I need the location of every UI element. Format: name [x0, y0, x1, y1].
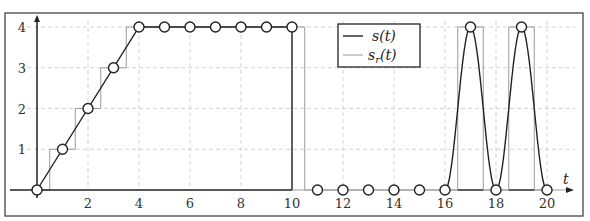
- sample-point: [491, 185, 501, 195]
- sample-point: [134, 22, 144, 32]
- sample-point: [160, 22, 170, 32]
- sample-point: [83, 104, 93, 114]
- legend-label-s: s(t): [372, 28, 396, 44]
- sample-point: [440, 185, 450, 195]
- sample-point: [517, 22, 527, 32]
- x-axis-arrow-icon: [566, 187, 574, 193]
- sample-point: [262, 22, 272, 32]
- tick-labels: 24681012141618201234: [18, 20, 556, 211]
- sample-point: [58, 144, 68, 154]
- legend: s(t) sr(t): [338, 24, 420, 67]
- x-tick-label: 16: [437, 196, 454, 211]
- grid-lines: [20, 21, 575, 190]
- sample-point: [32, 185, 42, 195]
- x-tick-label: 18: [488, 196, 505, 211]
- chart: t 24681012141618201234 s(t) sr(t): [0, 0, 590, 221]
- sample-point: [389, 185, 399, 195]
- x-tick-label: 14: [386, 196, 403, 211]
- y-axis-arrow-icon: [34, 15, 40, 22]
- x-axis-label: t: [563, 171, 569, 187]
- sample-point: [287, 22, 297, 32]
- sample-point: [185, 22, 195, 32]
- y-tick-label: 3: [18, 61, 26, 76]
- sample-point: [236, 22, 246, 32]
- x-tick-label: 10: [284, 196, 301, 211]
- x-tick-label: 20: [539, 196, 556, 211]
- sample-point: [364, 185, 374, 195]
- sample-point: [338, 185, 348, 195]
- y-tick-label: 1: [18, 142, 26, 157]
- x-tick-label: 6: [186, 196, 194, 211]
- y-tick-label: 4: [18, 20, 26, 35]
- y-tick-label: 2: [18, 102, 26, 117]
- x-tick-label: 4: [135, 196, 143, 211]
- sample-point: [415, 185, 425, 195]
- legend-label-sr: sr(t): [368, 47, 397, 65]
- x-tick-label: 8: [237, 196, 245, 211]
- sample-point: [211, 22, 221, 32]
- x-tick-label: 2: [84, 196, 92, 211]
- sample-point: [109, 63, 119, 73]
- sample-point: [466, 22, 476, 32]
- sample-point: [542, 185, 552, 195]
- x-tick-label: 12: [335, 196, 352, 211]
- sample-point: [313, 185, 323, 195]
